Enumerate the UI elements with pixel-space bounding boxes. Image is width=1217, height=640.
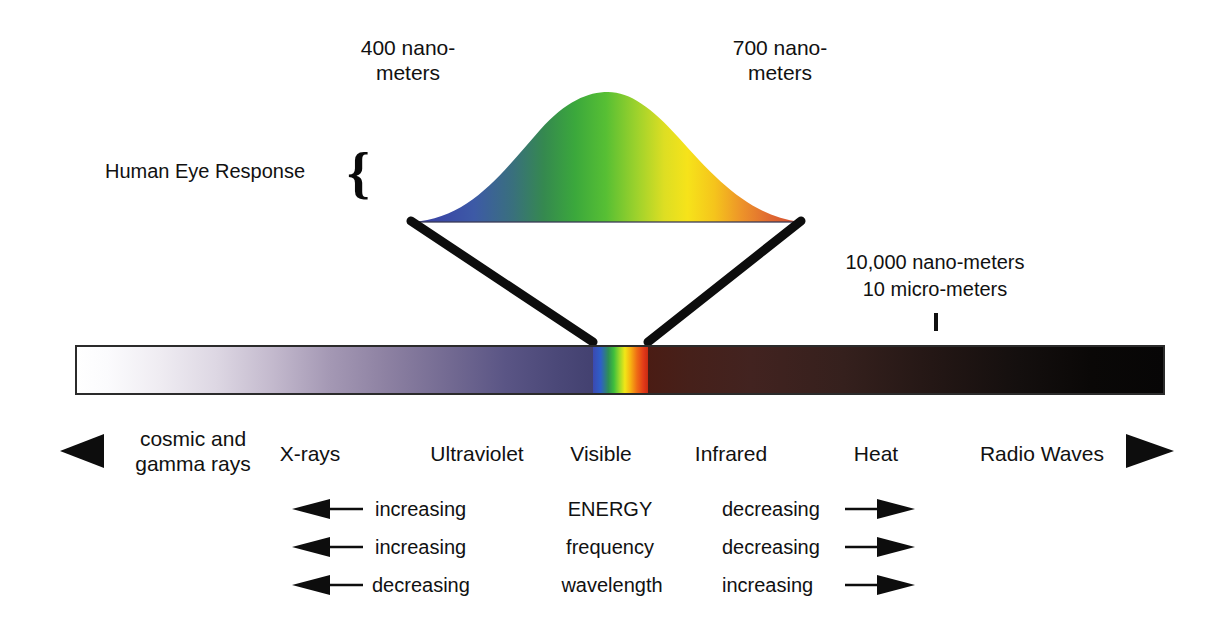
- eye-response-curve: [412, 92, 800, 222]
- infrared-tick-marker: [934, 313, 938, 331]
- trend-right-wavelength: increasing: [722, 574, 813, 597]
- trend-property-frequency: frequency: [530, 536, 690, 559]
- trend-left-wavelength: decreasing: [372, 574, 470, 597]
- label-700-nanometers: 700 nano- meters: [690, 36, 870, 86]
- label-human-eye-response: Human Eye Response: [105, 160, 305, 184]
- trend-right-frequency: decreasing: [722, 536, 820, 559]
- band-label-radio-waves: Radio Waves: [962, 441, 1122, 466]
- label-10-micrometers: 10 micro-meters: [805, 277, 1065, 302]
- trend-arrow-right-frequency: [845, 537, 915, 557]
- trend-property-energy: ENERGY: [530, 498, 690, 521]
- spectrum-segment-cosmic-gamma-xray-uv: [75, 345, 593, 395]
- trend-left-energy: increasing: [375, 498, 466, 521]
- label-400-nanometers: 400 nano- meters: [318, 36, 498, 86]
- spectrum-bar: [75, 345, 1165, 395]
- band-label-x-rays: X-rays: [250, 441, 370, 466]
- curly-brace-icon: {: [347, 144, 370, 202]
- trend-right-energy: decreasing: [722, 498, 820, 521]
- band-label-infrared: Infrared: [668, 441, 794, 466]
- funnel-connector-lines: [411, 221, 801, 342]
- band-label-heat: Heat: [826, 441, 926, 466]
- trend-arrow-left-frequency: [292, 537, 363, 557]
- label-10000-nanometers: 10,000 nano-meters: [805, 250, 1065, 275]
- trend-property-wavelength: wavelength: [524, 574, 700, 597]
- band-label-ultraviolet: Ultraviolet: [413, 441, 541, 466]
- spectrum-segment-visible: [593, 345, 648, 395]
- trend-arrow-right-wavelength: [845, 575, 915, 595]
- trend-left-frequency: increasing: [375, 536, 466, 559]
- trend-arrow-right-energy: [845, 499, 915, 519]
- right-arrow-icon: [1126, 434, 1174, 468]
- band-label-visible: Visible: [546, 441, 656, 466]
- trend-arrow-left-energy: [292, 499, 363, 519]
- trend-arrow-left-wavelength: [292, 575, 363, 595]
- left-arrow-icon: [60, 434, 104, 468]
- spectrum-segment-infrared-heat-radio: [648, 345, 1165, 395]
